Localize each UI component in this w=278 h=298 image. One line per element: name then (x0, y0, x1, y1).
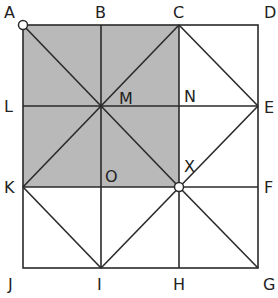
label-j: J (7, 275, 13, 294)
label-a: A (4, 3, 15, 22)
label-g: G (263, 275, 275, 294)
point-a-marker (19, 21, 28, 30)
label-m: M (119, 89, 133, 108)
label-o: O (105, 167, 118, 186)
label-k: K (4, 178, 15, 197)
label-e: E (264, 98, 274, 117)
line-k-i (23, 187, 101, 268)
label-n: N (184, 87, 196, 106)
label-c: C (173, 3, 184, 22)
label-d: D (264, 3, 276, 22)
point-x-marker (175, 183, 184, 192)
label-b: B (95, 3, 106, 22)
geometry-diagram: A B C D L M N E K O X F J I H G (0, 0, 278, 298)
label-x: X (184, 157, 195, 176)
line-x-g (179, 187, 258, 268)
label-i: I (97, 275, 102, 294)
label-l: L (4, 97, 13, 116)
label-f: F (264, 178, 273, 197)
label-h: H (173, 275, 185, 294)
